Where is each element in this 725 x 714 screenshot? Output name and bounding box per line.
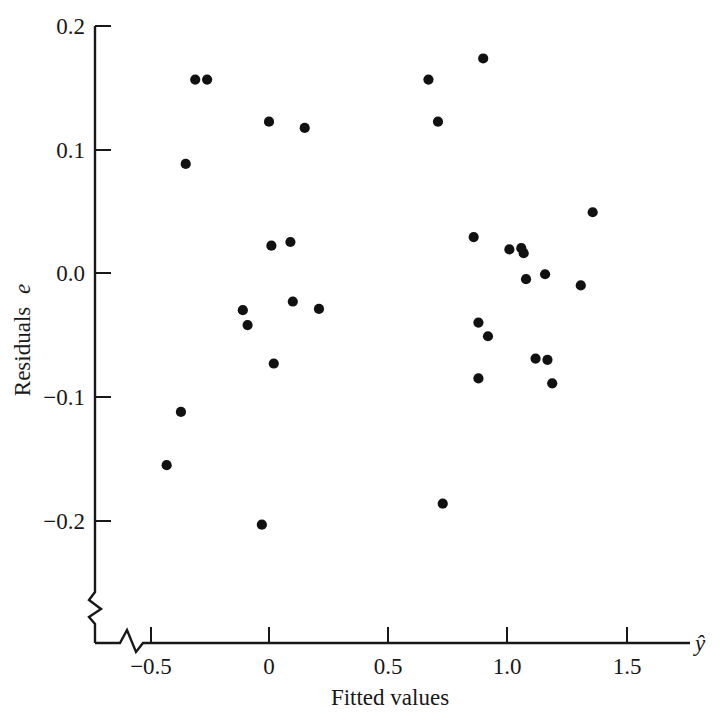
data-point (576, 280, 586, 290)
x-tick-label-3: 1.0 (493, 654, 522, 679)
x-axis-yhat-symbol: ŷ (693, 631, 706, 656)
data-point (473, 373, 483, 383)
y-axis-title-symbol: e (10, 284, 35, 294)
data-point (266, 241, 276, 251)
data-point (423, 74, 433, 84)
data-point (242, 320, 252, 330)
data-point (547, 378, 557, 388)
data-point (238, 305, 248, 315)
data-point (433, 117, 443, 127)
data-point (181, 159, 191, 169)
data-point (288, 296, 298, 306)
data-point (588, 207, 598, 217)
x-tick-label-1: 0 (263, 654, 275, 679)
data-point (473, 318, 483, 328)
y-axis-title: Residuals e (10, 284, 35, 396)
data-point (176, 407, 186, 417)
y-axis-title-text: Residuals (10, 307, 35, 396)
data-point (540, 269, 550, 279)
data-point (478, 53, 488, 63)
x-tick-label-4: 1.5 (613, 654, 642, 679)
y-tick-label-1: 0.1 (56, 138, 85, 163)
yhat-glyph: ŷ (693, 631, 706, 656)
data-point (202, 74, 212, 84)
data-points-group (162, 53, 598, 529)
data-point (530, 353, 540, 363)
data-point (257, 520, 267, 530)
data-point (269, 358, 279, 368)
data-point (504, 244, 514, 254)
scatter-plot-svg: 0.2 0.1 0.0 −0.1 −0.2 −0.5 0 0.5 1.0 1.5… (0, 0, 725, 714)
x-axis-title: Fitted values (331, 685, 449, 710)
y-tick-label-0: 0.2 (56, 14, 85, 39)
data-point (521, 274, 531, 284)
data-point (314, 304, 324, 314)
data-point (519, 248, 529, 258)
y-tick-label-2: 0.0 (56, 261, 85, 286)
data-point (542, 355, 552, 365)
data-point (162, 460, 172, 470)
x-tick-label-0: −0.5 (130, 654, 172, 679)
data-point (285, 237, 295, 247)
data-point (300, 123, 310, 133)
y-axis-line (89, 26, 101, 643)
x-axis-line (95, 630, 690, 652)
data-point (264, 117, 274, 127)
data-point (190, 74, 200, 84)
residual-plot-figure: 0.2 0.1 0.0 −0.1 −0.2 −0.5 0 0.5 1.0 1.5… (0, 0, 725, 714)
data-point (469, 232, 479, 242)
x-tick-label-2: 0.5 (374, 654, 403, 679)
data-point (483, 331, 493, 341)
y-tick-label-4: −0.2 (43, 509, 85, 534)
y-tick-label-3: −0.1 (43, 385, 85, 410)
data-point (438, 499, 448, 509)
